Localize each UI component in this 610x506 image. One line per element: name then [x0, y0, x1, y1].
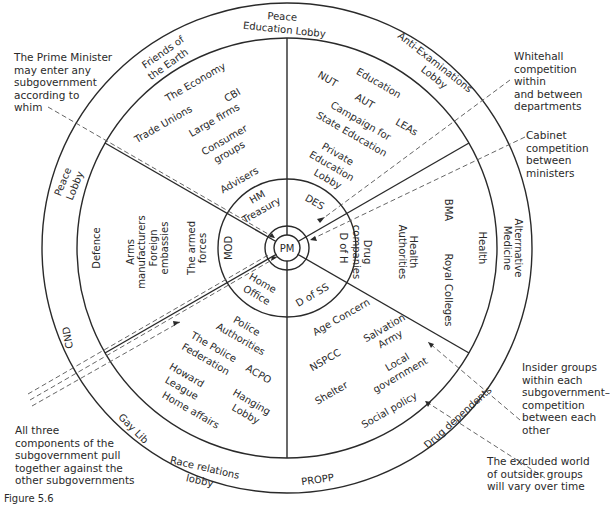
insider-acpo: ACPO — [244, 362, 273, 385]
three-leader-line-3 — [32, 322, 180, 406]
insider-royal-colleges: Royal Colleges — [443, 253, 454, 326]
insider-age-concern: Age Concern — [311, 296, 372, 337]
outsider-alterrnative: Alterrnative — [513, 219, 524, 278]
annotation-cabinet: Cabinet competition between ministers — [526, 129, 589, 179]
annotation-excluded: The excluded world of outsider groups wi… — [487, 455, 590, 493]
outsider-drug-dependents: Drug dependents — [422, 384, 494, 450]
insider-arms: Arms — [125, 239, 136, 265]
dept-des: DES — [303, 192, 326, 212]
arrowhead-icon — [271, 256, 277, 261]
insider-cbi: CBI — [222, 86, 242, 104]
annotation-insider: Insider groups within each subgovernment… — [522, 361, 610, 436]
figure-caption: Figure 5.6 — [4, 493, 54, 506]
arrowhead-icon — [428, 342, 434, 348]
insider-authorities: Authorities — [397, 225, 408, 280]
arrowhead-icon — [317, 217, 325, 223]
pm-label: PM — [280, 243, 295, 254]
arrowhead-icon — [173, 321, 180, 326]
dept-mod: MOD — [223, 236, 234, 260]
arrowhead-icon — [310, 236, 317, 241]
insider-bma: BMA — [443, 199, 454, 221]
insider-manufacturers: manufacturers — [136, 215, 147, 288]
insider-drug: Drug — [362, 240, 373, 265]
insider-forces: forces — [197, 233, 208, 263]
insider-embassies: embassies — [159, 222, 170, 275]
insider-advisers: Advisers — [218, 165, 260, 196]
insider-nut: NUT — [316, 69, 340, 89]
insider-shelter: Shelter — [313, 379, 350, 407]
annotation-three: All three components of the subgovernmen… — [15, 424, 135, 487]
annotation-pm: The Prime Minister may enter any subgove… — [14, 51, 112, 114]
insider-leas: LEAs — [394, 116, 420, 138]
insider-companies: companies — [351, 225, 362, 279]
outsider-propp: PROPP — [300, 472, 334, 487]
policy-area-defence: Defence — [91, 227, 102, 269]
insider-health: Health — [408, 236, 419, 269]
insider-the-armed: The armed — [186, 221, 197, 276]
outsider-peace: Peace — [267, 10, 297, 23]
outsider-race-lobby: lobby — [185, 472, 214, 489]
policy-area-social: Social policy — [360, 390, 419, 431]
dept-doh: D of H — [338, 232, 349, 263]
policy-area-health: Health — [477, 232, 488, 265]
annotation-whitehall: Whitehall competition within and between… — [514, 50, 607, 113]
outsider-peace-education: Education Lobby — [242, 20, 326, 40]
insider-aut: AUT — [353, 91, 377, 111]
outsider-medicine: Medicine — [502, 226, 513, 271]
whitehall-leader-line — [325, 80, 510, 217]
insider-trade-unions: Trade Unions — [132, 103, 194, 145]
insider-nspcc: NSPCC — [308, 347, 343, 373]
insider-foreign: Foreign — [148, 229, 159, 266]
